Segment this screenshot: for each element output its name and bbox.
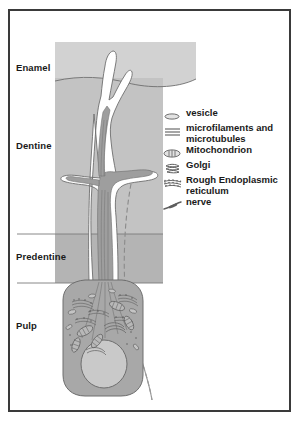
nucleus: [81, 340, 127, 388]
legend-label-nerve: nerve: [185, 197, 211, 208]
legend: vesicle microfilaments and microtubules: [161, 108, 297, 212]
odontoblast-cell-body: [63, 280, 143, 396]
legend-label-rough-endoplasmic-reticulum: Rough Endoplasmic reticulum: [185, 175, 297, 196]
rough-endoplasmic-reticulum-icon: [161, 176, 185, 189]
legend-item-vesicle: vesicle: [161, 108, 297, 122]
golgi-icon: [161, 161, 185, 174]
legend-label-vesicle: vesicle: [185, 108, 218, 119]
legend-label-microfilaments: microfilaments and microtubules: [185, 123, 297, 144]
nerve-icon: [161, 198, 185, 211]
legend-item-golgi: Golgi: [161, 160, 297, 174]
legend-item-rough-endoplasmic-reticulum: Rough Endoplasmic reticulum: [161, 175, 297, 196]
layer-label-enamel: Enamel: [16, 62, 50, 73]
legend-item-mitochondrion: Mitochondrion: [161, 145, 297, 159]
mitochondrion-icon: [161, 146, 185, 159]
vesicle-icon: [161, 109, 185, 122]
legend-item-nerve: nerve: [161, 197, 297, 211]
legend-label-golgi: Golgi: [185, 160, 210, 171]
layer-label-dentine: Dentine: [16, 140, 52, 151]
legend-item-microfilaments: microfilaments and microtubules: [161, 123, 297, 144]
legend-label-mitochondrion: Mitochondrion: [185, 145, 252, 156]
layer-label-predentine: Predentine: [16, 251, 66, 262]
layer-label-pulp: Pulp: [16, 320, 37, 331]
microfilaments-icon: [161, 124, 185, 137]
diagram-figure: Enamel Dentine Predentine Pulp vesicle: [0, 0, 301, 424]
